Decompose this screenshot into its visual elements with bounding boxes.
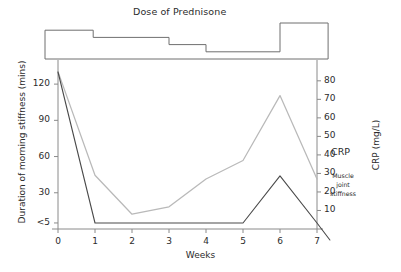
- x-tick-0: 0: [48, 236, 68, 246]
- stiffness-label-line-3: stiffness: [330, 190, 356, 197]
- x-tick-2: 2: [122, 236, 142, 246]
- y-tick-left-4: 120: [24, 78, 50, 88]
- series-label-crp: CRP: [331, 146, 350, 157]
- x-tick-4: 4: [196, 236, 216, 246]
- x-tick-3: 3: [159, 236, 179, 246]
- y-tick-right-6: 70: [324, 93, 346, 103]
- y-tick-right-4: 50: [324, 130, 346, 140]
- y-tick-left-0: <5: [24, 217, 50, 227]
- stiffness-label-line-2: joint: [336, 181, 350, 188]
- y-tick-left-1: 30: [24, 187, 50, 197]
- x-tick-5: 5: [233, 236, 253, 246]
- y-tick-right-7: 80: [324, 75, 346, 85]
- x-tick-7: 7: [307, 236, 327, 246]
- chart-axes: [52, 60, 323, 233]
- stiffness-label-line-1: Muscle: [332, 172, 353, 179]
- x-tick-6: 6: [270, 236, 290, 246]
- series-label-muscle-joint-stiffness: Muscle joint stiffness: [326, 172, 360, 199]
- y-tick-left-3: 90: [24, 114, 50, 124]
- figure-root: Dose of Prednisone Duration of morning s…: [0, 0, 401, 272]
- y-tick-left-2: 60: [24, 151, 50, 161]
- dose-step-chart: [45, 23, 328, 59]
- y-tick-right-5: 60: [324, 112, 346, 122]
- x-tick-1: 1: [85, 236, 105, 246]
- y-tick-right-0: 10: [324, 204, 346, 214]
- chart-series: [58, 72, 330, 240]
